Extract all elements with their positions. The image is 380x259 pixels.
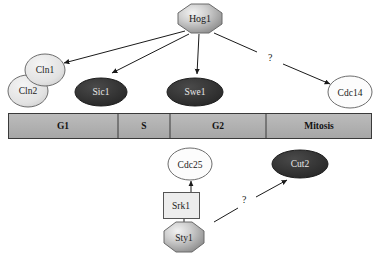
edge-hog1-to-cdc14 xyxy=(214,33,257,52)
node-srk1-shape[interactable] xyxy=(164,193,200,219)
edge-hog1-to-swe1 xyxy=(197,34,199,74)
cell-cycle-bar-body xyxy=(9,114,372,139)
cell-cycle-bar-group xyxy=(9,114,372,139)
edge-sty1-to-cut2 xyxy=(214,208,238,222)
node-cdc14-shape[interactable] xyxy=(328,76,372,108)
edge-hog1-to-cln1 xyxy=(64,31,185,63)
edge-hog1-to-cdc14-tail xyxy=(283,64,330,84)
edge-sty1-to-cut2-tail xyxy=(256,180,287,197)
pathway-diagram: Hog1 Cln2 Cln1 Sic1 Swe1 Cdc14 Cdc25 Cut… xyxy=(0,0,380,259)
node-sic1-shape[interactable] xyxy=(75,78,127,106)
node-cut2-shape[interactable] xyxy=(272,150,328,178)
diagram-vector-layer xyxy=(0,0,380,259)
node-hog1-shape[interactable] xyxy=(178,4,222,33)
node-cln1-shape[interactable] xyxy=(25,54,65,86)
node-sty1-shape[interactable] xyxy=(164,222,204,252)
node-swe1-shape[interactable] xyxy=(167,78,223,106)
node-cdc25-shape[interactable] xyxy=(168,148,212,180)
